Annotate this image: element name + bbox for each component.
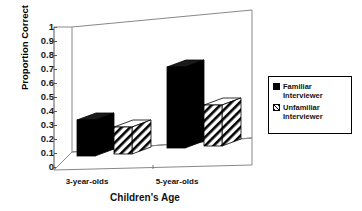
x-axis-title: Children's Age: [0, 192, 290, 203]
bar-side-face: [222, 98, 241, 146]
x-tick-label-group-1: 3-year-olds: [47, 177, 127, 186]
legend-swatch-hatch-icon: [273, 104, 280, 111]
y-tick-label: 0.6: [28, 78, 54, 88]
bar-front-face: [204, 105, 222, 146]
legend-label-unfamiliar-line1: Unfamiliar: [283, 103, 320, 112]
bar-front-face: [167, 67, 185, 148]
y-tick-label: 0.7: [28, 64, 54, 74]
legend-label-familiar-line2: Interviewer: [283, 91, 323, 100]
x-tick-label-group-2: 5-year-olds: [137, 177, 217, 186]
legend-item-unfamiliar: Unfamiliar Interviewer: [273, 103, 348, 121]
legend-item-familiar: Familiar Interviewer: [273, 82, 348, 100]
legend-label-unfamiliar: Unfamiliar Interviewer: [283, 103, 323, 121]
y-tick-label: 1: [28, 22, 54, 32]
bar-chart: Proportion Correct 1 0.9 0.8 0.7 0.6 0.5…: [0, 0, 362, 211]
y-tick-label: 0.8: [28, 50, 54, 60]
bar-side-face: [95, 113, 114, 156]
legend-label-unfamiliar-line2: Interviewer: [283, 112, 323, 121]
y-tick-label: 0.4: [28, 106, 54, 116]
y-tick-label: 0.1: [28, 148, 54, 158]
bar-5-year-olds-familiar: [167, 60, 204, 148]
bar-5-year-olds-unfamiliar: [204, 98, 241, 146]
y-tick-label: 0.9: [28, 36, 54, 46]
y-tick-label: 0.5: [28, 92, 54, 102]
bar-3-year-olds-unfamiliar: [114, 120, 151, 154]
legend-label-familiar-line1: Familiar: [283, 82, 312, 91]
bar-front-face: [114, 127, 132, 154]
y-tick-label: 0.2: [28, 134, 54, 144]
legend: Familiar Interviewer Unfamiliar Intervie…: [268, 76, 352, 134]
legend-swatch-solid-icon: [273, 83, 280, 90]
bar-side-face: [185, 60, 204, 148]
legend-label-familiar: Familiar Interviewer: [283, 82, 323, 100]
bar-front-face: [77, 120, 95, 156]
bar-3-year-olds-familiar: [77, 113, 114, 156]
y-tick-label: 0: [28, 162, 54, 172]
y-tick-label: 0.3: [28, 120, 54, 130]
